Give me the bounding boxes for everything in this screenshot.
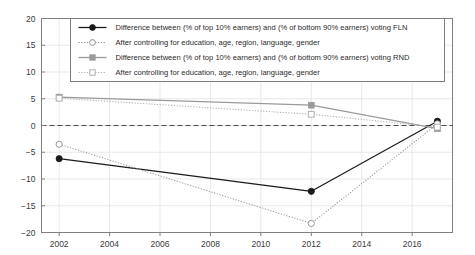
y-axis-tick-label: 20 [26, 14, 36, 24]
data-point-marker-open-square [434, 124, 440, 130]
y-axis-tick-label: −5 [26, 147, 36, 157]
y-axis-tick-label: −20 [21, 228, 36, 238]
y-axis-tick-label: 15 [26, 40, 36, 50]
y-axis-tick-label: 0 [31, 121, 36, 131]
x-axis-tick-label: 2012 [302, 239, 321, 249]
data-point-marker-filled-square [90, 55, 95, 60]
x-axis-tick-label: 2002 [50, 239, 69, 249]
data-point-marker-filled-circle [308, 188, 314, 194]
y-axis-tick-label: 5 [31, 94, 36, 104]
legend-label: Difference between (% of top 10% earners… [116, 53, 411, 62]
x-axis-tick-label: 2008 [201, 239, 220, 249]
legend-item-0[interactable]: Difference between (% of top 10% earners… [79, 23, 408, 32]
legend-label: After controlling for education, age, re… [116, 68, 321, 77]
data-point-marker-filled-square [308, 102, 314, 108]
y-axis-tick-label: 10 [26, 67, 36, 77]
data-point-marker-open-square [90, 70, 95, 75]
data-point-marker-filled-circle [90, 25, 96, 31]
data-point-marker-filled-circle [56, 156, 62, 162]
chart-legend: Difference between (% of top 10% earners… [71, 19, 445, 82]
chart-container: 20151050−5−10−15−20 20022004200620082010… [0, 0, 475, 255]
y-axis-tick-label: −15 [21, 201, 36, 211]
data-point-marker-open-circle [308, 220, 314, 226]
legend-label: Difference between (% of top 10% earners… [116, 23, 408, 32]
x-axis-tick-label: 2016 [403, 239, 422, 249]
legend-item-3[interactable]: After controlling for education, age, re… [79, 68, 321, 77]
data-point-marker-open-circle [56, 141, 62, 147]
y-axis-tick-label: −10 [21, 174, 36, 184]
line-chart: 20151050−5−10−15−20 20022004200620082010… [0, 0, 475, 255]
legend-item-1[interactable]: After controlling for education, age, re… [79, 38, 321, 47]
x-axis-tick-label: 2010 [251, 239, 270, 249]
x-axis-tick-label: 2006 [151, 239, 170, 249]
data-point-marker-open-circle [90, 40, 96, 46]
data-point-marker-open-square [308, 111, 314, 117]
x-axis-tick-label: 2014 [352, 239, 371, 249]
legend-item-2[interactable]: Difference between (% of top 10% earners… [79, 53, 411, 62]
data-point-marker-open-square [56, 95, 62, 101]
legend-label: After controlling for education, age, re… [116, 38, 321, 47]
x-axis-tick-label: 2004 [100, 239, 119, 249]
